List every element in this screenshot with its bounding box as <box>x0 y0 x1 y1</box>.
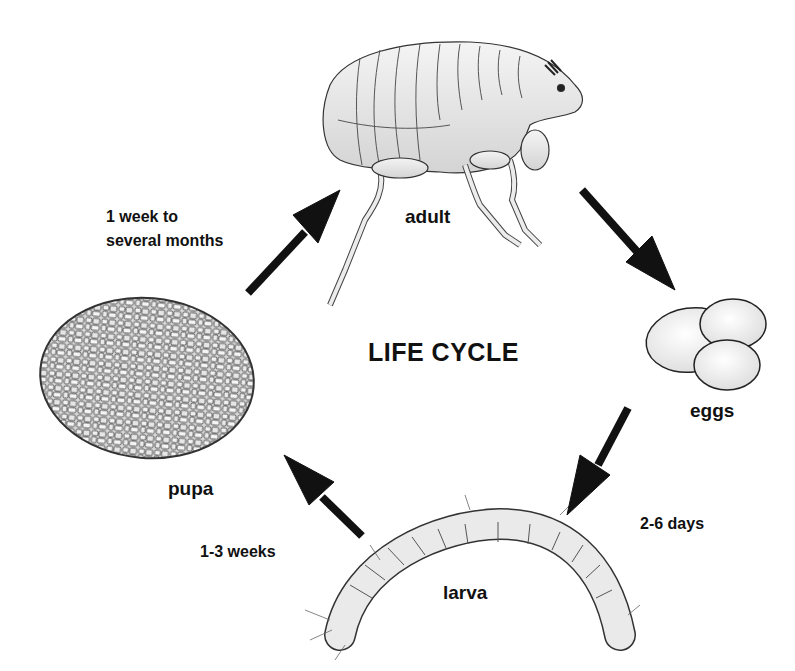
pupa-illustration <box>33 289 260 467</box>
duration-larva-to-pupa: 1-3 weeks <box>200 540 276 564</box>
duration-line-2: several months <box>106 229 223 253</box>
adult-flea-illustration <box>323 42 582 305</box>
duration-eggs-to-larva: 2-6 days <box>640 512 704 536</box>
duration-pupa-to-adult: 1 week to several months <box>106 205 223 253</box>
stage-label-adult: adult <box>405 206 450 228</box>
diagram-graphics <box>0 0 795 671</box>
stage-label-eggs: eggs <box>690 400 734 422</box>
arrow-larva-to-pupa <box>284 455 362 536</box>
arrow-pupa-to-adult <box>248 190 340 293</box>
arrow-adult-to-eggs <box>582 190 675 290</box>
life-cycle-diagram: LIFE CYCLE adult eggs larva pupa 1 week … <box>0 0 795 671</box>
larva-illustration <box>305 495 640 660</box>
eggs-illustration <box>642 299 766 390</box>
arrow-eggs-to-larva <box>567 408 628 515</box>
stage-label-pupa: pupa <box>168 478 213 500</box>
diagram-title: LIFE CYCLE <box>368 338 519 367</box>
stage-label-larva: larva <box>443 582 487 604</box>
duration-line-1: 1 week to <box>106 205 223 229</box>
